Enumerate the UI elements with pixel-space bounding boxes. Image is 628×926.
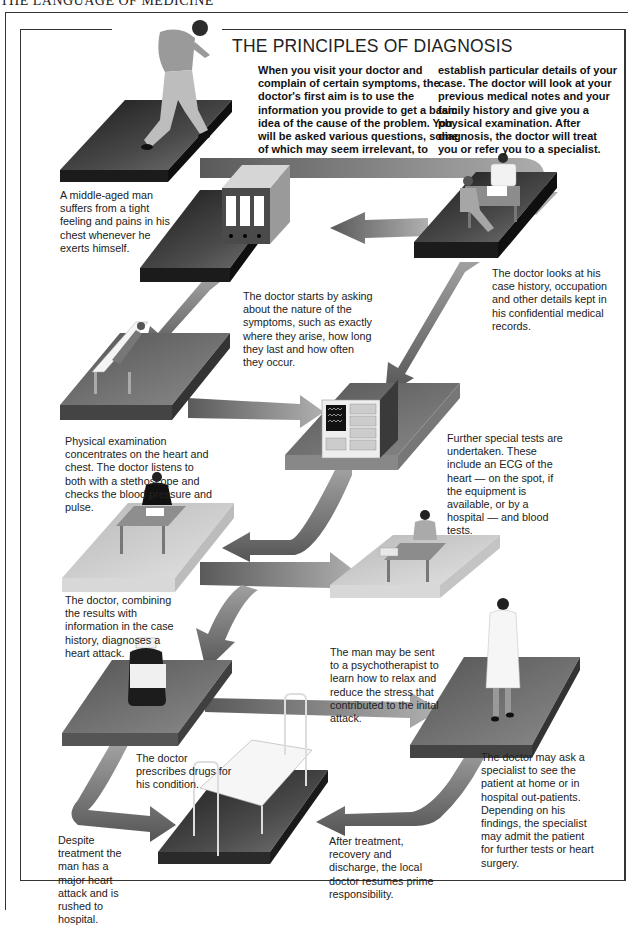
arrow-5-to-6 xyxy=(222,470,352,562)
caption-prescription: The doctor prescribes drugs for his cond… xyxy=(136,752,236,792)
caption-diagnosis: The doctor, combining the results with i… xyxy=(65,594,177,660)
arrow-6-to-8 xyxy=(196,585,258,670)
arrow-2-to-5 xyxy=(385,262,480,396)
caption-case-history: The doctor looks at his case history, oc… xyxy=(492,267,618,333)
caption-psychotherapy: The man may be sent to a psychotherapist… xyxy=(330,646,444,725)
arrow-4-to-5 xyxy=(188,395,324,428)
caption-specialist: The doctor may ask a specialist to see t… xyxy=(481,751,599,870)
medical-record-files-icon xyxy=(222,165,290,244)
caption-physical-exam: Physical examination concentrates on the… xyxy=(65,435,215,514)
caption-special-tests: Further special tests are undertaken. Th… xyxy=(447,432,565,538)
intro-paragraph-2: establish particular details of your cas… xyxy=(438,64,618,156)
page-title: THE PRINCIPLES OF DIAGNOSIS xyxy=(232,36,513,57)
caption-symptoms: A middle-aged man suffers from a tight f… xyxy=(60,189,172,255)
caption-hospital: Despite treatment the man has a major he… xyxy=(58,834,138,926)
arrow-9-to-11 xyxy=(316,745,490,836)
caption-discharge: After treatment, recovery and discharge,… xyxy=(329,835,437,901)
intro-paragraph-1: When you visit your doctor and complain … xyxy=(258,64,463,156)
arrow-2-to-3 xyxy=(330,212,428,244)
platform-case-history xyxy=(414,172,557,258)
caption-questions: The doctor starts by asking about the na… xyxy=(243,290,373,369)
